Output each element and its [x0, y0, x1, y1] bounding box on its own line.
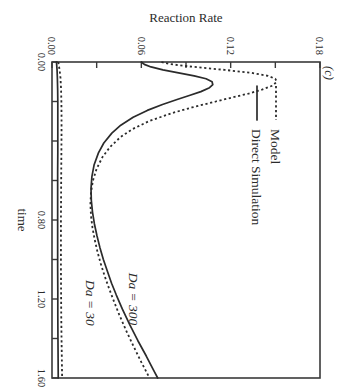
panel-label: (c)	[322, 66, 336, 80]
data-series-line	[58, 62, 62, 378]
curve-annotation: Da = 300	[126, 272, 141, 326]
x-tick-label: 1.20	[36, 290, 47, 308]
x-axis-title: time	[15, 208, 30, 231]
y-axis-ticks	[52, 62, 320, 68]
figure-container: 0.000.801.201.60 0.000.060.120.18 Da = 3…	[0, 0, 338, 392]
data-series-line	[91, 62, 213, 378]
legend: ModelDirect Simulation	[249, 86, 283, 226]
x-tick-label: 0.80	[36, 211, 47, 229]
x-tick-label: 0.00	[36, 53, 47, 71]
chart-svg: 0.000.801.201.60 0.000.060.120.18 Da = 3…	[0, 0, 338, 392]
x-tick-label: 1.60	[36, 369, 47, 387]
y-tick-label: 0.06	[136, 37, 147, 55]
x-axis-tick-labels: 0.000.801.201.60	[36, 53, 47, 387]
y-axis-title: Reaction Rate	[149, 10, 223, 25]
curve-annotations: Da = 300Da = 30	[83, 272, 142, 326]
data-series-group	[56, 62, 276, 378]
curve-annotation: Da = 30	[83, 279, 98, 326]
y-axis-tick-labels: 0.000.060.120.18	[46, 37, 325, 55]
y-tick-label: 0.00	[46, 37, 57, 55]
legend-label: Direct Simulation	[249, 129, 264, 226]
rotated-figure-stage: 0.000.801.201.60 0.000.060.120.18 Da = 3…	[0, 0, 338, 392]
legend-label: Model	[268, 129, 283, 164]
y-tick-label: 0.12	[225, 37, 236, 55]
plot-frame	[52, 62, 320, 378]
y-tick-label: 0.18	[314, 37, 325, 55]
